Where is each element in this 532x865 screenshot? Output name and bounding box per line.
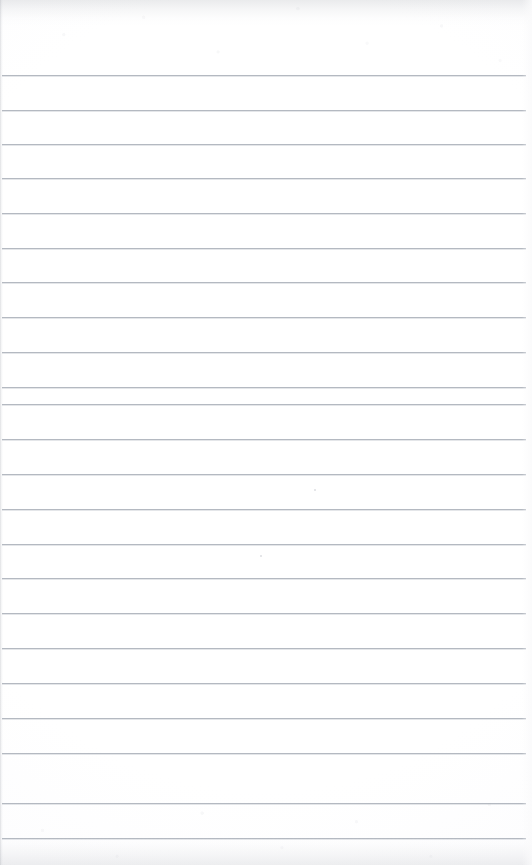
ruled-line (2, 544, 526, 545)
ruled-line (2, 753, 526, 754)
ruled-line (2, 613, 526, 614)
ruled-line (2, 110, 526, 111)
ruled-line (2, 718, 526, 719)
ruled-line (2, 213, 526, 214)
ruled-line (2, 178, 526, 179)
ruled-line (2, 509, 526, 510)
ruled-line (2, 352, 526, 353)
ruled-line (2, 387, 526, 388)
ruled-line (2, 282, 526, 283)
ruled-line (2, 317, 526, 318)
ruled-line (2, 578, 526, 579)
ruled-line (2, 144, 526, 145)
ruled-line (2, 248, 526, 249)
ruled-line (2, 404, 526, 405)
ruled-line (2, 838, 526, 839)
ruled-lines-group (0, 0, 532, 865)
scanned-page (0, 0, 532, 865)
ruled-line (2, 683, 526, 684)
ruled-line (2, 474, 526, 475)
ruled-line (2, 75, 526, 76)
ruled-line (2, 803, 526, 804)
ruled-line (2, 648, 526, 649)
ruled-line (2, 439, 526, 440)
